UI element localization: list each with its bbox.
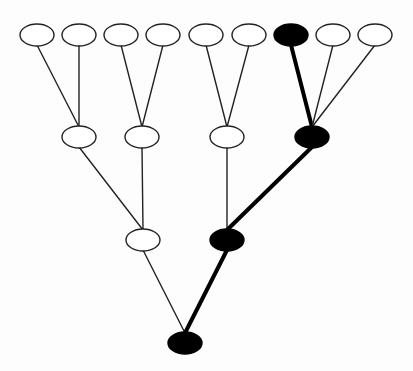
edge-L1-M1 (37, 45, 79, 127)
edge-L6-M3 (227, 45, 249, 127)
node-L8 (316, 24, 350, 46)
edge-M2-N1 (142, 147, 143, 230)
tree-diagram (0, 0, 413, 371)
edge-L9-M4 (312, 45, 375, 127)
node-L2 (62, 24, 96, 46)
highlighted-node-N2 (210, 229, 244, 251)
edge-L8-M4 (312, 45, 333, 127)
highlighted-edge-M4-N2 (227, 147, 312, 230)
node-L3 (104, 24, 138, 46)
highlighted-node-R (168, 332, 202, 354)
edge-N1-R (143, 250, 185, 333)
node-L9 (358, 24, 392, 46)
edge-M1-N1 (79, 147, 143, 230)
node-L4 (146, 24, 180, 46)
node-M3 (210, 126, 244, 148)
node-N1 (126, 229, 160, 251)
node-M1 (62, 126, 96, 148)
highlighted-node-M4 (295, 126, 329, 148)
highlighted-node-L7 (274, 24, 308, 46)
highlighted-edge-L7-M4 (291, 45, 312, 127)
node-L1 (20, 24, 54, 46)
node-L6 (232, 24, 266, 46)
edge-L4-M2 (142, 45, 163, 127)
node-M2 (125, 126, 159, 148)
edge-L5-M3 (206, 45, 227, 127)
highlighted-edge-N2-R (185, 250, 227, 333)
nodes-layer (20, 24, 392, 354)
edges-layer (37, 45, 375, 333)
edge-L3-M2 (121, 45, 142, 127)
node-L5 (189, 24, 223, 46)
